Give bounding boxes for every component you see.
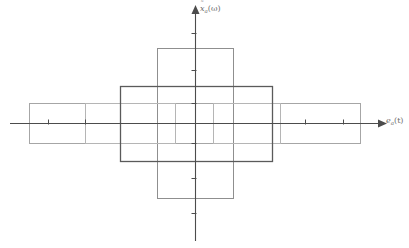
y-axis-label-subscript: a bbox=[205, 8, 208, 14]
y-axis-label-argument: (ω) bbox=[208, 4, 221, 13]
figure-canvas bbox=[0, 0, 409, 248]
tilde-accent: ˜ bbox=[201, 1, 205, 8]
x-axis-label-subscript: a bbox=[391, 120, 394, 126]
spectrum-figure: x˜a(ω) ea(t) bbox=[0, 0, 409, 248]
x-axis-label-argument: (t) bbox=[394, 116, 403, 125]
x-axis-label: ea(t) bbox=[386, 117, 403, 125]
y-axis-label: x˜a(ω) bbox=[200, 5, 221, 13]
x-axis bbox=[10, 120, 387, 128]
y-axis-arrowhead bbox=[192, 5, 200, 14]
